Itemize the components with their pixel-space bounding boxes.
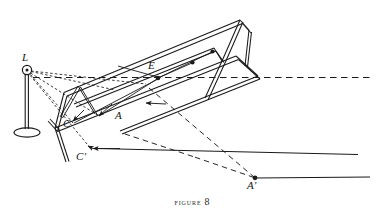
label-C: C [63,118,70,129]
frame-top-rail [64,20,243,96]
figure-caption: Figure 8 [0,196,384,207]
lamp-bulb-inner [26,69,29,72]
ladder-frame-group [48,20,260,162]
figure-drawing-canvas [0,0,384,217]
sight-lines-group [74,49,257,180]
figure-8-illustration: L E A C C' A' Figure 8 [0,0,384,217]
figure-caption-prefix: Figure [174,197,201,207]
point-E-dot [156,76,161,81]
label-A: A [115,110,122,121]
lamp-pole [25,74,28,129]
floor-lines-group [96,149,370,179]
arrow-to-A [146,103,166,104]
frame-right-leg-outer [245,30,252,67]
arrow-to-Cprime-stem [88,146,93,149]
ray-L-to-Cprime [30,76,92,151]
sight-dot-upper [210,49,214,53]
label-E: E [148,60,155,71]
figure-caption-number: 8 [205,196,210,207]
arrow-to-C [73,110,84,121]
projection-lower-left-run [122,133,193,157]
frame-left-foot [55,128,69,163]
floor-line-upper [96,149,358,155]
label-C-prime: C' [76,151,86,162]
label-A-prime: A' [247,180,257,191]
label-L: L [22,52,28,63]
sight-dot-lower [190,60,194,64]
frame-far-bottom-rail [120,76,260,134]
frame-right-cross-strut [214,48,224,63]
floor-line-lower [255,177,370,178]
shadow-projection-group [122,88,254,178]
projection-E-to-Aprime [149,88,254,177]
projection-Aprime-to-left [193,157,254,178]
lamp-base [14,128,40,137]
